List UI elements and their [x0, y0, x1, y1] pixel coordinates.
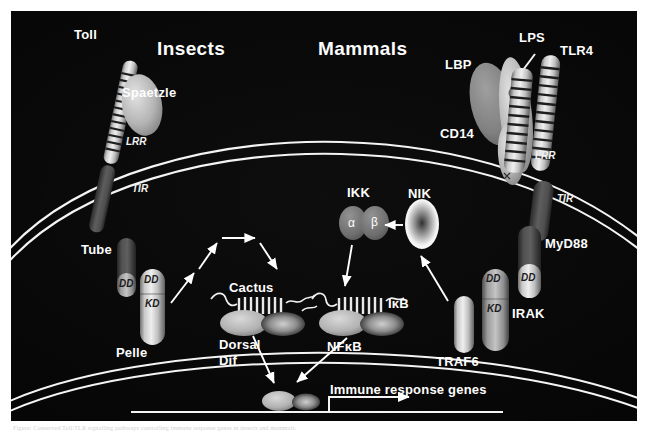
label-cactus: Cactus	[229, 281, 274, 294]
diagram-artwork	[11, 11, 637, 421]
figure-container: Insects Mammals Toll Spaetzle LRR TIR Tu…	[0, 0, 648, 438]
label-tube-dd: DD	[119, 279, 133, 289]
label-toll: Toll	[74, 28, 97, 41]
label-ikk-beta: β	[371, 216, 378, 228]
label-pelle-dd: DD	[144, 275, 158, 285]
label-pelle-kd: KD	[145, 299, 159, 309]
section-title-mammals: Mammals	[318, 39, 407, 58]
label-irak-dd: DD	[486, 274, 500, 284]
nuclear-membrane	[11, 353, 637, 416]
cactus-complex	[211, 293, 315, 336]
ikk-complex	[339, 206, 389, 240]
label-myd88-dd: DD	[521, 273, 535, 283]
label-lbp: LBP	[445, 58, 472, 71]
label-tlr4-tir: TIR	[557, 194, 573, 204]
label-traf6: TRAF6	[436, 355, 479, 368]
label-dorsal: Dorsal	[219, 338, 261, 351]
section-title-insects: Insects	[157, 39, 225, 58]
label-myd88: MyD88	[545, 237, 588, 250]
traf6-protein	[454, 296, 474, 353]
label-dif: Dif	[219, 354, 237, 367]
label-ikk: IKK	[347, 186, 370, 199]
label-cd14: CD14	[440, 127, 474, 140]
label-toll-lrr: LRR	[126, 137, 147, 147]
nik-kinase	[405, 199, 439, 249]
label-nik: NIK	[408, 187, 431, 200]
label-ikb: IκB	[388, 297, 409, 310]
label-tube: Tube	[81, 243, 112, 256]
label-irak-kd: KD	[487, 304, 501, 314]
label-tlr4-lrr: LRR	[535, 151, 556, 161]
label-tlr4: TLR4	[560, 44, 593, 57]
label-immune-response-genes: Immune response genes	[330, 383, 487, 396]
diagram-panel: Insects Mammals Toll Spaetzle LRR TIR Tu…	[11, 11, 637, 421]
label-toll-tir: TIR	[132, 184, 148, 194]
label-spaetzle: Spaetzle	[122, 86, 176, 99]
myd88-adaptor	[518, 226, 541, 298]
label-nfkb: NFκB	[327, 340, 362, 353]
label-pelle: Pelle	[116, 346, 147, 359]
label-irak: IRAK	[512, 307, 545, 320]
label-lps: LPS	[519, 31, 545, 44]
figure-caption: Figure: Conserved Toll/TLR signalling pa…	[13, 424, 635, 431]
label-ikk-alpha: α	[348, 217, 355, 229]
